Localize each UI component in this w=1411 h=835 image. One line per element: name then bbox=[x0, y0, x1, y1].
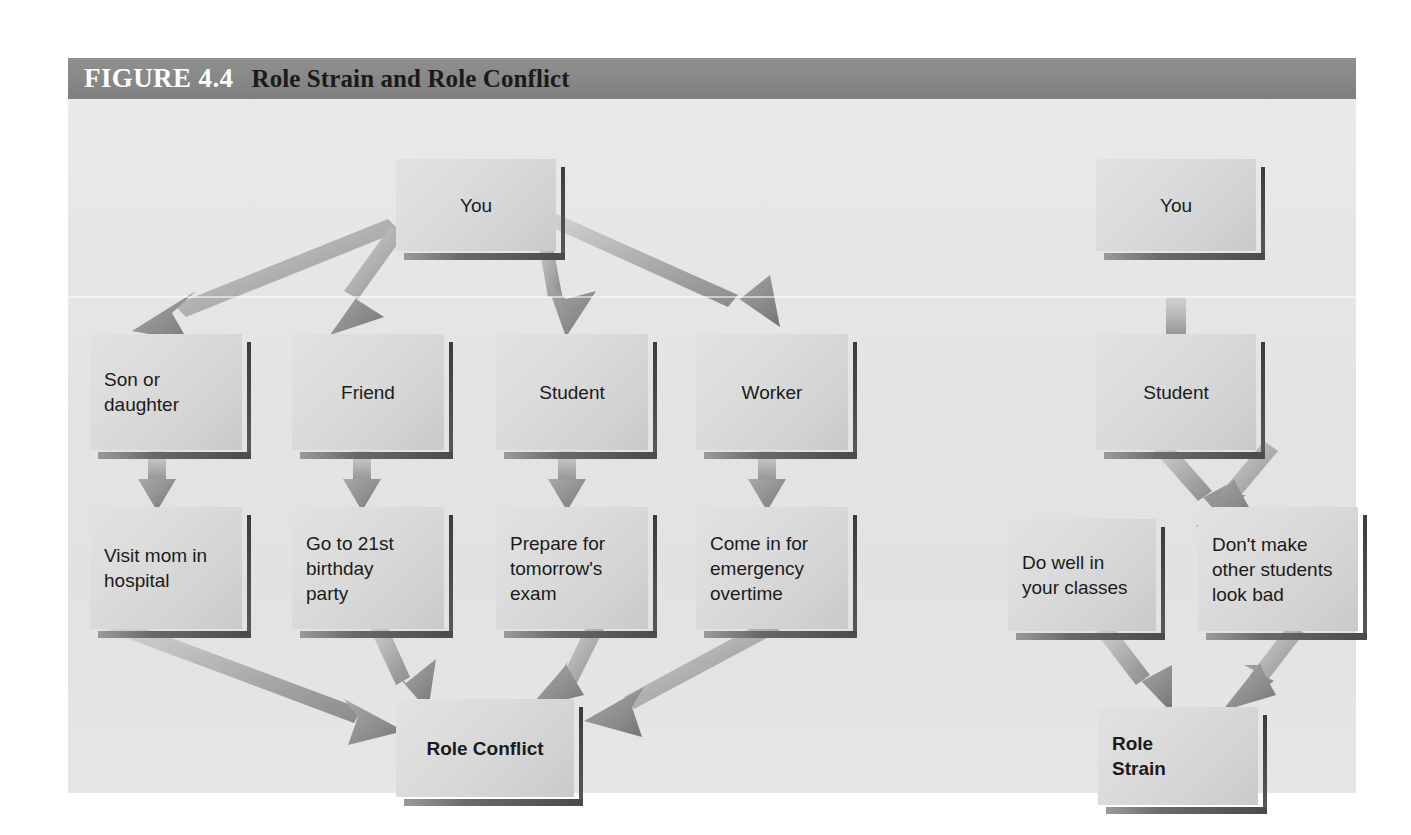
node-dont-make-label: Don't make other students look bad bbox=[1212, 532, 1348, 607]
figure-number: FIGURE 4.4 bbox=[84, 62, 234, 92]
figure-title: Role Strain and Role Conflict bbox=[252, 64, 570, 91]
node-overtime-label: Come in for emergency overtime bbox=[710, 531, 838, 606]
arrow-son-to-visit-mom bbox=[138, 451, 176, 511]
figure-body: You Son or daughter Friend Student Worke… bbox=[68, 99, 1356, 793]
node-you-left[interactable]: You bbox=[396, 159, 556, 251]
node-visit-mom[interactable]: Visit mom in hospital bbox=[90, 507, 242, 629]
node-worker[interactable]: Worker bbox=[696, 334, 848, 450]
node-exam[interactable]: Prepare for tomorrow's exam bbox=[496, 507, 648, 629]
figure-caption: FIGURE 4.4Role Strain and Role Conflict bbox=[84, 62, 570, 93]
node-friend-label: Friend bbox=[292, 380, 444, 405]
node-son-or-daughter-label: Son or daughter bbox=[104, 367, 232, 417]
node-visit-mom-label: Visit mom in hospital bbox=[104, 543, 232, 593]
node-birthday-party[interactable]: Go to 21st birthday party bbox=[292, 507, 444, 629]
node-overtime[interactable]: Come in for emergency overtime bbox=[696, 507, 848, 629]
node-do-well[interactable]: Do well in your classes bbox=[1008, 519, 1156, 631]
node-do-well-label: Do well in your classes bbox=[1022, 550, 1146, 600]
arrow-friend-to-birthday bbox=[343, 451, 381, 511]
node-role-conflict[interactable]: Role Conflict bbox=[396, 699, 574, 797]
node-dont-make[interactable]: Don't make other students look bad bbox=[1198, 507, 1358, 631]
node-role-conflict-label: Role Conflict bbox=[396, 736, 574, 761]
node-worker-label: Worker bbox=[696, 380, 848, 405]
node-student-left[interactable]: Student bbox=[496, 334, 648, 450]
node-you-right-label: You bbox=[1096, 193, 1256, 218]
node-birthday-party-label: Go to 21st birthday party bbox=[306, 531, 434, 606]
node-student-left-label: Student bbox=[496, 380, 648, 405]
arrow-student-to-exam bbox=[548, 451, 586, 511]
node-exam-label: Prepare for tomorrow's exam bbox=[510, 531, 638, 606]
node-friend[interactable]: Friend bbox=[292, 334, 444, 450]
figure-container: FIGURE 4.4Role Strain and Role Conflict bbox=[68, 58, 1356, 793]
node-you-right[interactable]: You bbox=[1096, 159, 1256, 251]
arrow-worker-to-overtime bbox=[748, 451, 786, 511]
node-student-right-label: Student bbox=[1096, 380, 1256, 405]
figure-header-bar: FIGURE 4.4Role Strain and Role Conflict bbox=[68, 58, 1356, 99]
node-you-left-label: You bbox=[396, 193, 556, 218]
node-role-strain-label: Role Strain bbox=[1112, 731, 1248, 781]
node-role-strain[interactable]: Role Strain bbox=[1098, 707, 1258, 805]
node-student-right[interactable]: Student bbox=[1096, 334, 1256, 450]
node-son-or-daughter[interactable]: Son or daughter bbox=[90, 334, 242, 450]
